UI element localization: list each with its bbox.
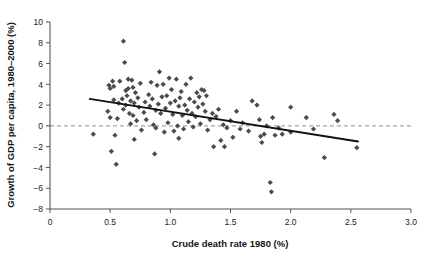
x-tick-label: 2.5: [345, 217, 357, 227]
y-tick-label: −2: [33, 142, 43, 152]
y-tick-label: 2: [38, 100, 43, 110]
x-tick-label: 1.5: [225, 217, 237, 227]
x-tick-label: 0.5: [104, 217, 116, 227]
chart-background: [0, 0, 423, 257]
x-tick-label: 3.0: [405, 217, 417, 227]
y-tick-label: 10: [34, 17, 44, 27]
y-tick-label: 8: [38, 38, 43, 48]
x-tick-label: 2.0: [285, 217, 297, 227]
x-axis-label: Crude death rate 1980 (%): [172, 238, 289, 249]
y-tick-label: 0: [38, 121, 43, 131]
y-tick-label: 4: [38, 80, 43, 90]
x-tick-label: 0: [48, 217, 53, 227]
y-tick-label: −6: [33, 183, 43, 193]
x-tick-label: 1.0: [164, 217, 176, 227]
y-tick-label: −4: [33, 163, 43, 173]
scatter-chart-figure: 00.51.01.52.02.53.0 1086420−2−4−6−8 Crud…: [0, 0, 423, 257]
chart-canvas: 00.51.01.52.02.53.0 1086420−2−4−6−8 Crud…: [0, 0, 423, 257]
y-axis-label: Growth of GDP per capita, 1980–2000 (%): [5, 22, 16, 208]
y-tick-label: 6: [38, 59, 43, 69]
y-tick-label: −8: [33, 204, 43, 214]
